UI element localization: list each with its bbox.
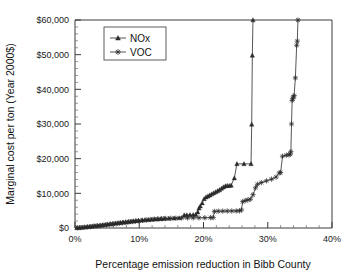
legend-label: VOC: [130, 47, 152, 58]
data-point: [225, 208, 230, 213]
data-point: [259, 180, 264, 185]
legend-label: NOx: [130, 33, 150, 44]
x-axis-title: Percentage emission reduction in Bibb Co…: [95, 258, 311, 270]
x-tick-label: 20%: [194, 234, 212, 244]
data-point: [269, 176, 274, 181]
data-point: [220, 208, 225, 213]
y-tick-label: $20,000: [36, 154, 69, 164]
data-point: [295, 17, 300, 22]
data-point: [280, 154, 285, 159]
y-tick-label: $30,000: [36, 119, 69, 129]
data-point: [288, 149, 293, 154]
y-tick-label: $0: [59, 223, 69, 233]
marginal-cost-curve-chart: 0%10%20%30%40% $0$10,000$20,000$30,000$4…: [0, 0, 354, 275]
x-tick-label: 30%: [259, 234, 277, 244]
y-axis-title: Marginal cost per ton (Year 2000$): [4, 43, 16, 204]
data-point: [173, 216, 178, 221]
data-point: [185, 215, 190, 220]
data-point: [291, 93, 296, 98]
y-tick-label: $10,000: [36, 189, 69, 199]
data-point: [295, 39, 300, 44]
data-point: [264, 178, 269, 183]
chart-background: [0, 0, 354, 275]
data-point: [179, 215, 184, 220]
y-tick-label: $50,000: [36, 50, 69, 60]
data-point: [191, 215, 196, 220]
data-point: [293, 75, 298, 80]
data-point: [210, 215, 215, 220]
chart-legend: NOxVOC: [104, 27, 166, 60]
chart-figure: 0%10%20%30%40% $0$10,000$20,000$30,000$4…: [0, 0, 354, 275]
x-tick-label: 40%: [323, 234, 341, 244]
data-point: [148, 217, 153, 222]
data-point: [248, 197, 253, 202]
x-tick-label: 10%: [130, 234, 148, 244]
data-point: [273, 174, 278, 179]
data-point: [163, 216, 168, 221]
y-tick-label: $60,000: [36, 15, 69, 25]
x-tick-label: 0%: [68, 234, 81, 244]
data-point: [144, 217, 149, 222]
data-point: [140, 218, 145, 223]
data-point: [196, 215, 201, 220]
data-point: [202, 215, 207, 220]
data-point: [216, 209, 221, 214]
data-point: [229, 208, 234, 213]
data-point: [294, 43, 299, 48]
data-point: [168, 216, 173, 221]
data-point: [239, 207, 244, 212]
star-marker-icon: [115, 49, 121, 55]
data-point: [289, 121, 294, 126]
y-tick-label: $40,000: [36, 85, 69, 95]
data-point: [136, 218, 141, 223]
data-point: [250, 192, 255, 197]
data-point: [278, 170, 283, 175]
